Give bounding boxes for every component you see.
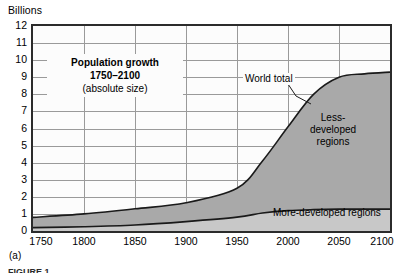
annotation-less-developed-line-3: regions [296,136,370,148]
y-axis-tick-7: 7 [3,105,27,116]
y-axis-unit-label: Billions [8,4,42,16]
x-axis-tick-1800: 1800 [72,235,95,248]
subfigure-label: (a) [9,250,21,262]
y-axis-tick-2: 2 [3,191,27,202]
figure-population-growth: Billions 0123456789101112 17501800185019… [0,0,417,273]
annotation-less-developed-line-1: Less- [296,112,370,124]
annotation-more-developed-regions: More-developed regions [273,207,381,219]
annotation-less-developed-line-2: developed [296,124,370,136]
x-axis-tick-1850: 1850 [123,235,146,248]
chart-title: Population growth 1750–2100 (absolute si… [47,54,183,97]
x-axis-tick-1950: 1950 [225,235,248,248]
figure-caption-cut: FIGURE 1 [8,266,248,273]
x-axis-tick-2100: 2100 [370,235,393,248]
x-axis-tick-1750: 1750 [29,235,52,248]
y-axis-tick-11: 11 [3,37,27,48]
chart-title-line-1: Population growth [50,56,180,69]
y-axis-tick-9: 9 [3,71,27,82]
y-axis-tick-labels: 0123456789101112 [0,24,27,233]
y-axis-tick-6: 6 [3,123,27,134]
y-axis-tick-0: 0 [3,225,27,236]
chart-title-line-2: 1750–2100 [50,69,180,82]
x-axis-tick-labels: 17501800185019001950200020502100 [31,235,392,249]
y-axis-tick-3: 3 [3,174,27,185]
y-axis-tick-10: 10 [3,54,27,65]
y-axis-tick-5: 5 [3,140,27,151]
annotation-world-total: World total [243,73,295,85]
y-axis-tick-1: 1 [3,208,27,219]
chart-title-line-3: (absolute size) [50,82,180,95]
y-axis-tick-12: 12 [3,20,27,31]
annotation-less-developed-regions: Less- developed regions [296,112,370,148]
y-axis-tick-4: 4 [3,157,27,168]
x-axis-tick-2000: 2000 [276,235,299,248]
y-axis-tick-8: 8 [3,88,27,99]
x-axis-tick-1900: 1900 [174,235,197,248]
x-axis-tick-2050: 2050 [327,235,350,248]
